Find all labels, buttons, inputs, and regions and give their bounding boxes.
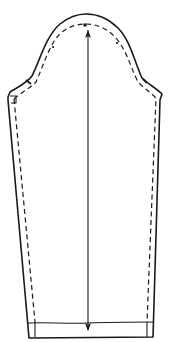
seam-dot-left bbox=[52, 46, 54, 48]
sleeve-pattern-diagram bbox=[0, 0, 169, 342]
shoulder-point-dot bbox=[83, 23, 87, 27]
corner-mark-left bbox=[10, 96, 16, 103]
seam-dot-right bbox=[116, 42, 118, 44]
hem-fold-line bbox=[28, 322, 154, 323]
cutting-line bbox=[8, 14, 162, 338]
